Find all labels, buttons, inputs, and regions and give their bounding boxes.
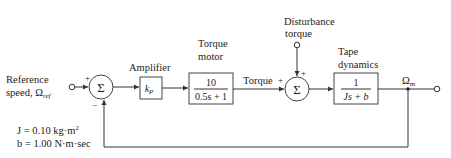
output-label: Ωm: [402, 75, 416, 88]
summing-junction-2: Σ: [285, 77, 309, 101]
tape-title-line1: Tape: [338, 46, 359, 57]
input-terminal: [69, 84, 75, 90]
param-J: J = 0.10 kg·m2: [17, 124, 79, 136]
sum2-plus-left: +: [278, 75, 283, 85]
motor-numerator: 10: [206, 77, 216, 88]
input-label-line2: speed, Ωref: [6, 87, 52, 100]
output-terminal: [434, 86, 440, 92]
amplifier-title: Amplifier: [129, 62, 171, 73]
sum2-plus-top: +: [301, 68, 306, 78]
disturbance-label-line1: Disturbance: [284, 16, 335, 27]
sum1-minus-sign: −: [92, 100, 97, 110]
disturbance-label-line2: torque: [285, 28, 312, 39]
tape-title-line2: dynamics: [338, 59, 378, 70]
motor-title-line2: motor: [198, 51, 224, 62]
sigma-symbol: Σ: [293, 82, 301, 97]
block-diagram: Reference speed, Ωref Σ + − Amplifier kP…: [0, 0, 451, 158]
motor-title-line1: Torque: [198, 38, 228, 49]
torque-label: Torque: [243, 75, 273, 86]
param-b: b = 1.00 N·m·sec: [17, 138, 91, 149]
summing-junction-1: Σ: [89, 75, 113, 99]
tape-numerator: 1: [354, 77, 359, 88]
motor-denominator: 0.5s + 1: [195, 91, 227, 102]
disturbance-terminal: [294, 42, 300, 48]
sigma-symbol: Σ: [97, 80, 105, 95]
sum1-plus-sign: +: [85, 73, 90, 83]
tape-denominator: Js + b: [343, 91, 368, 102]
input-label-line1: Reference: [6, 74, 49, 85]
